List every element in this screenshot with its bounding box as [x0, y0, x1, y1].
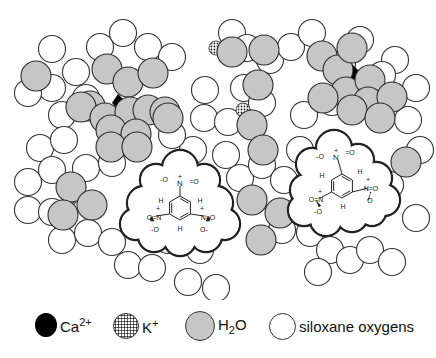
- legend-item-siloxane: siloxane oxygens: [269, 313, 414, 340]
- siloxane-oxygen: [135, 34, 162, 61]
- water-molecule: [246, 225, 276, 255]
- atom-label: +: [366, 176, 370, 183]
- atom-label: +: [200, 205, 204, 212]
- legend-item-water: H2O: [185, 311, 247, 341]
- atom-label: +: [334, 147, 338, 154]
- atom-label: O=N: [147, 214, 162, 221]
- atom-label: O: [367, 197, 373, 204]
- siloxane-oxygen: [39, 36, 66, 63]
- atom-label: O=N: [309, 196, 324, 203]
- water-molecule: [337, 95, 367, 125]
- atom-label: H: [177, 225, 182, 232]
- atom-label: H: [340, 203, 345, 210]
- siloxane-oxygen: [15, 197, 42, 224]
- water-molecule: [77, 190, 107, 220]
- water-molecule: [217, 37, 247, 67]
- siloxane-oxygen: [51, 127, 78, 154]
- atom-label: H: [158, 197, 163, 204]
- water-molecule: [365, 103, 395, 133]
- clay-surface-diagram: N+-O=OHHHO=N+-ON=O+O-N+-O=OHHHN=O+OO=N+-…: [0, 0, 436, 300]
- legend: Ca2+ K+ H2O siloxane oxygens: [0, 300, 436, 358]
- siloxane-oxygen: [203, 275, 230, 301]
- water-molecule: [21, 61, 51, 91]
- atom-label: N: [177, 179, 183, 188]
- siloxane-oxygen: [75, 220, 102, 247]
- siloxane-oxygen: [110, 20, 137, 47]
- water-molecule: [248, 135, 278, 165]
- legend-label-potassium: K+: [142, 317, 158, 336]
- atom-label: H: [197, 197, 202, 204]
- siloxane-oxygen: [305, 259, 332, 286]
- water-molecule: [122, 132, 152, 162]
- siloxane-oxygen: [403, 205, 430, 232]
- atom-label: =O: [345, 149, 355, 156]
- atom-label: N: [333, 153, 339, 162]
- water-molecule: [243, 70, 273, 100]
- water-molecule: [308, 83, 338, 113]
- siloxane-oxygen-icon: [269, 313, 296, 340]
- atom-label: N=O: [201, 214, 216, 221]
- potassium-ion-icon: [113, 313, 139, 339]
- legend-label-siloxane: siloxane oxygens: [299, 318, 414, 335]
- atom-label: +: [178, 173, 182, 180]
- legend-label-water: H2O: [218, 316, 247, 336]
- water-molecule: [237, 185, 267, 215]
- water-molecule: [391, 147, 421, 177]
- siloxane-oxygen: [175, 269, 202, 296]
- siloxane-oxygen: [63, 59, 90, 86]
- legend-item-calcium: Ca2+: [35, 313, 92, 337]
- atom-label: -O: [160, 176, 168, 183]
- water-molecule: [138, 58, 168, 88]
- atom-label: =O: [189, 178, 199, 185]
- atom-label: -O: [151, 226, 159, 233]
- water-molecule: [48, 200, 78, 230]
- siloxane-oxygen: [115, 252, 142, 279]
- atom-label: -O: [314, 208, 322, 215]
- calcium-ion-icon: [35, 313, 57, 337]
- legend-label-calcium: Ca2+: [60, 316, 92, 335]
- atom-label: H: [357, 168, 362, 175]
- water-molecule: [337, 33, 367, 63]
- water-molecule-icon: [185, 311, 215, 341]
- atom-label: N=O: [364, 185, 379, 192]
- siloxane-oxygen: [379, 249, 406, 276]
- siloxane-oxygen: [15, 169, 42, 196]
- atom-label: +: [318, 188, 322, 195]
- atom-label: +: [156, 205, 160, 212]
- atom-label: O-: [200, 226, 208, 233]
- siloxane-oxygen: [49, 227, 76, 254]
- siloxane-oxygen: [191, 105, 218, 132]
- atom-label: -O: [316, 153, 324, 160]
- atom-label: H: [319, 172, 324, 179]
- water-molecule: [153, 103, 183, 133]
- siloxane-oxygen: [213, 142, 240, 169]
- legend-item-potassium: K+: [113, 313, 158, 339]
- siloxane-oxygen: [139, 255, 166, 282]
- siloxane-oxygen: [192, 77, 219, 104]
- water-molecule: [249, 35, 279, 65]
